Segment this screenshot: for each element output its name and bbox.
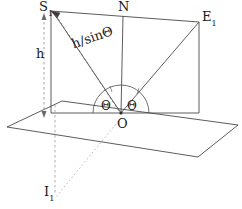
label-I1: I1 (44, 185, 54, 202)
label-theta-left: Θ (101, 100, 111, 112)
label-E1: E1 (202, 10, 217, 27)
label-height-h: h (36, 47, 44, 60)
label-N: N (118, 0, 129, 17)
meridian-line-N-to-O (121, 16, 123, 113)
diagram-canvas: S1 N E1 h h/sinΘ Θ Θ O I1 (0, 0, 242, 209)
projection-ray-O-to-I1 (56, 118, 121, 197)
label-S1: S1 (39, 0, 53, 17)
label-point-O: O (117, 117, 128, 130)
diagram-vector-layer (0, 0, 242, 209)
label-theta-right: Θ (127, 100, 137, 112)
point-O-marker (119, 111, 122, 114)
height-h-arrow-bottom (42, 111, 47, 118)
